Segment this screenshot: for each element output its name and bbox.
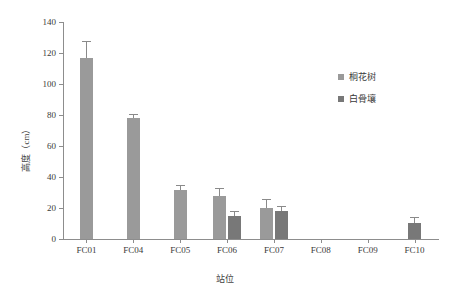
- bar-group: [251, 22, 298, 239]
- error-bar: [180, 186, 181, 191]
- bar-group: [110, 22, 157, 239]
- y-tick-label: 80: [47, 110, 56, 120]
- plot-area: 020406080100120140: [63, 22, 438, 239]
- bar-slot: [213, 22, 226, 239]
- legend-item[interactable]: 桐花树: [338, 70, 376, 83]
- error-bar: [281, 207, 282, 211]
- x-axis-label: 站位: [0, 272, 449, 285]
- legend-swatch: [338, 74, 344, 80]
- x-tick-label: FC06: [217, 245, 237, 255]
- bar-slot: [408, 22, 421, 239]
- error-bar: [266, 200, 267, 208]
- x-tick-mark: [274, 239, 275, 243]
- bar-slot: [174, 22, 187, 239]
- bar-group: [344, 22, 391, 239]
- error-bar: [234, 212, 235, 216]
- y-tick-label: 100: [43, 79, 57, 89]
- bar-group: [157, 22, 204, 239]
- x-tick-label: FC05: [170, 245, 190, 255]
- error-bar-cap: [230, 211, 239, 212]
- error-bar-cap: [176, 185, 185, 186]
- x-tick-label: FC04: [123, 245, 143, 255]
- bar[interactable]: [80, 58, 93, 239]
- bar[interactable]: [228, 216, 241, 239]
- x-tick-mark: [227, 239, 228, 243]
- error-bar: [86, 42, 87, 58]
- bar[interactable]: [260, 208, 273, 239]
- error-bar-cap: [410, 217, 419, 218]
- y-tick-label: 0: [52, 234, 57, 244]
- bar[interactable]: [275, 211, 288, 239]
- x-tick-label: FC08: [311, 245, 331, 255]
- bar-group: [391, 22, 438, 239]
- x-tick-mark: [415, 239, 416, 243]
- error-bar-cap: [262, 199, 271, 200]
- bar-group: [204, 22, 251, 239]
- bar-slot: [260, 22, 273, 239]
- error-bar: [133, 115, 134, 118]
- x-tick-mark: [368, 239, 369, 243]
- bar-slot: [275, 22, 288, 239]
- y-tick-label: 20: [47, 203, 56, 213]
- bar-chart: 高度（cm） 020406080100120140 桐花树白骨壤 站位 FC01…: [0, 0, 449, 295]
- x-tick-mark: [86, 239, 87, 243]
- x-axis-line: [63, 239, 439, 240]
- error-bar-cap: [215, 188, 224, 189]
- x-tick-label: FC09: [358, 245, 378, 255]
- x-tick-mark: [133, 239, 134, 243]
- bar[interactable]: [213, 196, 226, 239]
- error-bar-cap: [82, 41, 91, 42]
- bar-group: [63, 22, 110, 239]
- x-tick-label: FC10: [405, 245, 425, 255]
- y-axis-label: 高度（cm）: [19, 124, 32, 171]
- legend-swatch: [338, 96, 344, 102]
- bar[interactable]: [408, 223, 421, 239]
- error-bar-cap: [277, 206, 286, 207]
- bar-slot: [228, 22, 241, 239]
- x-tick-label: FC07: [264, 245, 284, 255]
- x-tick-mark: [180, 239, 181, 243]
- y-tick-label: 140: [43, 17, 57, 27]
- legend: 桐花树白骨壤: [338, 70, 376, 105]
- x-tick-mark: [321, 239, 322, 243]
- bar-slot: [127, 22, 140, 239]
- error-bar: [414, 218, 415, 223]
- y-tick-mark: [59, 239, 63, 240]
- error-bar-cap: [129, 114, 138, 115]
- bar-group: [297, 22, 344, 239]
- legend-label: 桐花树: [349, 70, 376, 83]
- error-bar: [219, 189, 220, 195]
- bar-slot: [80, 22, 93, 239]
- x-tick-label: FC01: [76, 245, 96, 255]
- y-tick-label: 60: [47, 141, 56, 151]
- bar[interactable]: [174, 190, 187, 239]
- y-tick-label: 120: [43, 48, 57, 58]
- legend-label: 白骨壤: [349, 92, 376, 105]
- bar[interactable]: [127, 118, 140, 239]
- y-tick-label: 40: [47, 172, 56, 182]
- legend-item[interactable]: 白骨壤: [338, 92, 376, 105]
